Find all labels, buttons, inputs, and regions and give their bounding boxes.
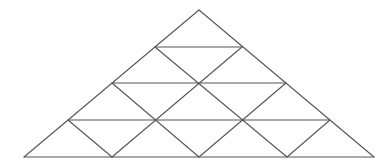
diag-down-right-3-line — [68, 120, 112, 157]
diag-down-left-3-line — [287, 120, 330, 157]
diag-down-right-1-line — [155, 47, 287, 157]
diag-down-left-1-line — [112, 47, 242, 157]
triangle-lattice-diagram — [0, 0, 391, 166]
diagram-lines — [24, 10, 374, 157]
